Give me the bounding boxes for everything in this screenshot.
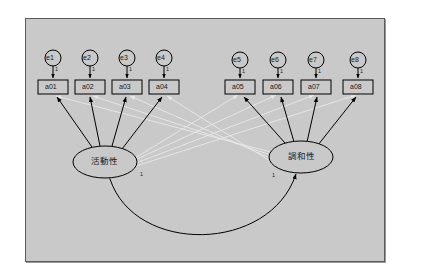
loading-arrows-factor1 (57, 97, 162, 149)
indicator-label-a06: a06 (270, 83, 282, 90)
error-label-e3: e3 (120, 54, 128, 61)
error-label-e2: e2 (83, 54, 91, 61)
indicator-label-a07: a07 (308, 83, 320, 90)
loading-arrows-factor2 (244, 97, 356, 145)
fixed-one-e6: 1 (280, 69, 283, 75)
diagram-canvas: e1 e2 e3 e4 e5 e6 e7 e8 1 1 1 1 1 1 1 1 … (0, 0, 421, 280)
indicator-label-a05: a05 (232, 83, 244, 90)
error-label-e1: e1 (46, 54, 54, 61)
fixed-one-f1: 1 (140, 172, 143, 178)
latent-label-f1: 活動性 (91, 157, 118, 166)
fixed-one-e4: 1 (166, 67, 169, 73)
fixed-one-e2: 1 (92, 67, 95, 73)
error-label-e7: e7 (309, 56, 317, 63)
fixed-one-e1: 1 (55, 67, 58, 73)
error-arrows (53, 66, 358, 78)
indicator-label-a04: a04 (156, 83, 168, 90)
indicator-label-a01: a01 (45, 83, 57, 90)
fixed-one-f2: 1 (272, 173, 275, 179)
error-label-e8: e8 (351, 56, 359, 63)
path-diagram-svg (0, 0, 421, 280)
fixed-one-e8: 1 (360, 69, 363, 75)
indicator-label-a02: a02 (82, 83, 94, 90)
latent-label-f2: 調和性 (288, 152, 315, 161)
fixed-one-e5: 1 (242, 69, 245, 75)
fixed-one-e7: 1 (318, 69, 321, 75)
error-label-e4: e4 (157, 54, 165, 61)
fixed-one-e3: 1 (129, 67, 132, 73)
error-label-e6: e6 (271, 56, 279, 63)
indicator-label-a08: a08 (350, 83, 362, 90)
indicator-label-a03: a03 (119, 83, 131, 90)
error-label-e5: e5 (233, 56, 241, 63)
covariance-arc (110, 174, 296, 235)
